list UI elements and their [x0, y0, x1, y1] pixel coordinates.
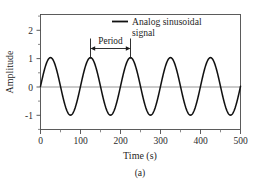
period-label: Period [98, 36, 123, 46]
x-tick-label-100: 100 [73, 136, 88, 146]
x-tick-label-500: 500 [233, 136, 248, 146]
x-tick-label-200: 200 [113, 136, 128, 146]
y-tick-label-0: 0 [28, 83, 33, 93]
sinusoidal-signal-chart: 2 1 0 -1 Amplitude 0 100 200 300 400 50 [0, 0, 273, 183]
period-arrow-head-left [91, 46, 96, 50]
figure-caption: (a) [135, 167, 146, 179]
x-tick-label-300: 300 [153, 136, 168, 146]
x-tick-label-0: 0 [38, 136, 43, 146]
y-axis-title: Amplitude [4, 50, 15, 93]
y-tick-label-minus-1: -1 [25, 111, 33, 121]
legend-label-line2: signal [132, 27, 155, 38]
x-tick-label-400: 400 [193, 136, 208, 146]
y-tick-label-1: 1 [28, 54, 33, 64]
y-tick-label-2: 2 [28, 26, 33, 36]
figure-container: 2 1 0 -1 Amplitude 0 100 200 300 400 50 [0, 0, 273, 183]
period-arrow-head-right [126, 46, 131, 50]
period-annotation: Period [91, 36, 131, 59]
sinusoidal-waveform [41, 58, 241, 115]
legend: Analog sinusoidal signal [112, 16, 202, 38]
legend-label-line1: Analog sinusoidal [132, 16, 202, 27]
x-axis-title: Time (s) [123, 150, 157, 162]
